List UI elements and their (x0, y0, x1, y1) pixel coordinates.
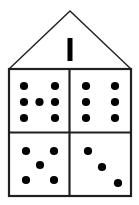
dot (50, 147, 58, 155)
dot (51, 114, 59, 122)
dot (82, 114, 90, 122)
tally-mark-icon (68, 38, 73, 61)
dot (82, 82, 90, 90)
dot (111, 82, 119, 90)
dot (20, 82, 28, 90)
dot (114, 179, 122, 187)
dot (51, 82, 59, 90)
house-dot-diagram (0, 0, 139, 205)
dot (111, 114, 119, 122)
house-diagram-canvas (0, 0, 139, 205)
dot (35, 98, 43, 106)
dot (22, 147, 30, 155)
dot (51, 98, 59, 106)
dot (36, 161, 44, 169)
dot (22, 176, 30, 184)
dot (98, 163, 106, 171)
dot (111, 98, 119, 106)
dot (20, 114, 28, 122)
dot (20, 98, 28, 106)
dot (50, 176, 58, 184)
dot (82, 98, 90, 106)
dot (84, 147, 92, 155)
